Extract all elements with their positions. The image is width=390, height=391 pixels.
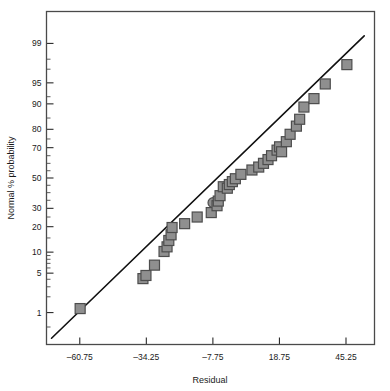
x-axis-tick-label: –60.75 bbox=[67, 352, 93, 362]
normal-probability-plot: 15102030507080909599 –60.75–34.25–7.7518… bbox=[0, 0, 390, 391]
data-point-square bbox=[236, 169, 246, 179]
y-axis-tick-label: 99 bbox=[32, 38, 42, 48]
x-axis-tick-label: 45.25 bbox=[335, 352, 357, 362]
data-point-square bbox=[277, 147, 287, 157]
data-point-square bbox=[192, 212, 202, 222]
data-point-square bbox=[141, 270, 151, 280]
data-point-square bbox=[180, 219, 190, 229]
y-axis-tick-label: 30 bbox=[32, 203, 42, 213]
y-axis-tick-label: 80 bbox=[32, 124, 42, 134]
data-point-square bbox=[320, 79, 330, 89]
data-point-square bbox=[295, 114, 305, 124]
y-axis-tick-label: 5 bbox=[37, 268, 42, 278]
y-axis-tick-label: 10 bbox=[32, 247, 42, 257]
x-axis-tick-label: –7.75 bbox=[202, 352, 224, 362]
data-point-square bbox=[309, 94, 319, 104]
x-axis-tick-label: –34.25 bbox=[133, 352, 159, 362]
data-point-square bbox=[149, 260, 159, 270]
y-axis-tick-label: 1 bbox=[37, 308, 42, 318]
y-axis-tick-label: 90 bbox=[32, 99, 42, 109]
data-point-square bbox=[75, 304, 85, 314]
data-point-square bbox=[167, 223, 177, 233]
y-axis-tick-label: 50 bbox=[32, 173, 42, 183]
y-axis-title: Normal % probability bbox=[6, 136, 16, 220]
data-point-square bbox=[299, 102, 309, 112]
chart-canvas: 15102030507080909599 –60.75–34.25–7.7518… bbox=[0, 0, 390, 391]
y-axis-tick-label: 95 bbox=[32, 78, 42, 88]
y-axis-tick-label: 20 bbox=[32, 222, 42, 232]
y-axis-tick-label: 70 bbox=[32, 143, 42, 153]
x-axis-title: Residual bbox=[192, 375, 227, 385]
x-axis-tick-label: 18.75 bbox=[269, 352, 291, 362]
data-point-square bbox=[342, 60, 352, 70]
